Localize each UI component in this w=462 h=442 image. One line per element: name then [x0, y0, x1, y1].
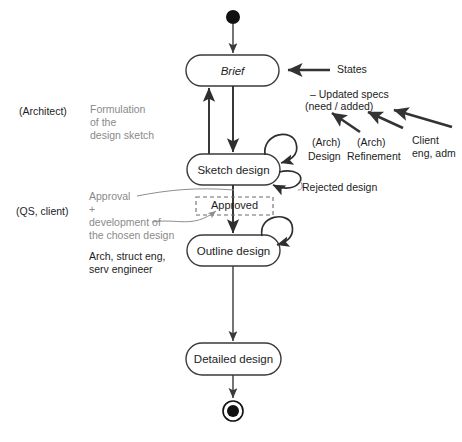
annotation-arch-refinement-role: (Arch): [357, 136, 386, 149]
final-state-node: [227, 405, 239, 417]
annotation-rejected-design: Rejected design: [302, 181, 377, 194]
connector-development: [152, 211, 216, 222]
annotation-approval-line3: development of: [89, 216, 161, 229]
annotation-team-line2: serv engineer: [89, 263, 153, 276]
state-brief-label: Brief: [221, 65, 246, 77]
annotation-client-line2: eng, adm: [412, 147, 456, 160]
diagram-svg: Brief Sketch design Approved Outline des…: [0, 0, 462, 442]
callout-leader-arch-refinement: [368, 112, 403, 128]
annotation-updated-specs-line2: (need / added): [305, 100, 373, 113]
annotation-arch-design-label: Design: [308, 150, 341, 163]
annotation-arch-design-role: (Arch): [312, 136, 341, 149]
annotation-qs-client-role: (QS, client): [16, 205, 69, 218]
annotation-approval-line4: the chosen design: [89, 229, 174, 242]
annotation-client-line1: Client: [412, 134, 439, 147]
guard-approved-label: Approved: [211, 199, 258, 211]
annotation-formulation-line1: Formulation: [90, 103, 145, 116]
annotation-approval-line1: Approval: [89, 190, 130, 203]
annotation-approval-line2: +: [89, 203, 95, 216]
state-sketch-design-label: Sketch design: [197, 164, 269, 176]
state-detailed-design-label: Detailed design: [194, 353, 273, 365]
annotation-states: States: [337, 63, 367, 76]
initial-state-node: [226, 10, 240, 24]
connector-approval: [137, 189, 234, 196]
callout-leader-client: [394, 110, 452, 127]
annotation-arch-refinement-label: Refinement: [347, 150, 401, 163]
annotation-team-line1: Arch, struct eng,: [89, 250, 165, 263]
callout-leader-arch-design: [332, 113, 360, 132]
annotation-architect-role: (Architect): [19, 105, 67, 118]
annotation-formulation-line3: design sketch: [90, 129, 154, 142]
state-diagram-canvas: Brief Sketch design Approved Outline des…: [0, 0, 462, 442]
state-outline-design-label: Outline design: [197, 245, 271, 257]
annotation-formulation-line2: of the: [90, 116, 116, 129]
